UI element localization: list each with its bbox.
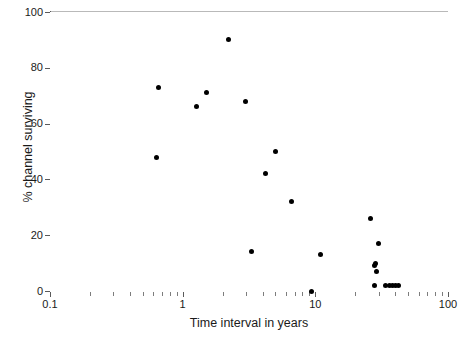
y-tick-label-wrap: 0 (0, 286, 43, 297)
data-point (309, 289, 314, 294)
x-minor-tick (427, 292, 428, 296)
x-minor-tick (90, 292, 91, 296)
x-minor-tick (302, 292, 303, 296)
y-axis-title: % channel surviving (21, 27, 35, 267)
data-point (273, 149, 278, 154)
x-tick-0.1 (50, 292, 51, 297)
x-minor-tick (408, 292, 409, 296)
data-point (368, 216, 373, 221)
y-tick-80 (45, 68, 50, 69)
x-tick-label-1: 1 (158, 298, 208, 310)
x-minor-tick (286, 292, 287, 296)
x-tick-10 (315, 292, 316, 297)
y-tick-label-wrap: 100 (0, 7, 43, 18)
x-minor-tick (275, 292, 276, 296)
x-minor-tick (162, 292, 163, 296)
x-minor-tick (379, 292, 380, 296)
x-minor-tick (153, 292, 154, 296)
x-minor-tick (246, 292, 247, 296)
x-minor-tick (442, 292, 443, 296)
x-tick-1 (183, 292, 184, 297)
x-minor-tick (130, 292, 131, 296)
y-tick-label-100: 100 (1, 7, 43, 18)
x-axis-title: Time interval in years (50, 316, 448, 330)
chart-container: 020406080100 0.1110100 Time interval in … (0, 0, 465, 339)
y-tick-60 (45, 124, 50, 125)
y-tick-label-0: 0 (1, 286, 43, 297)
x-minor-tick (435, 292, 436, 296)
x-tick-label-0.1: 0.1 (25, 298, 75, 310)
y-tick-40 (45, 179, 50, 180)
x-tick-label-10: 10 (290, 298, 340, 310)
x-tick-label-100: 100 (423, 298, 465, 310)
data-point (396, 283, 401, 288)
x-minor-tick (223, 292, 224, 296)
y-tick-100 (45, 12, 50, 13)
x-minor-tick (355, 292, 356, 296)
x-minor-tick (263, 292, 264, 296)
x-minor-tick (295, 292, 296, 296)
x-minor-tick (113, 292, 114, 296)
x-minor-tick (143, 292, 144, 296)
x-minor-tick (177, 292, 178, 296)
x-tick-100 (448, 292, 449, 297)
x-minor-tick (170, 292, 171, 296)
x-minor-tick (419, 292, 420, 296)
x-minor-tick (395, 292, 396, 296)
y-tick-20 (45, 235, 50, 236)
